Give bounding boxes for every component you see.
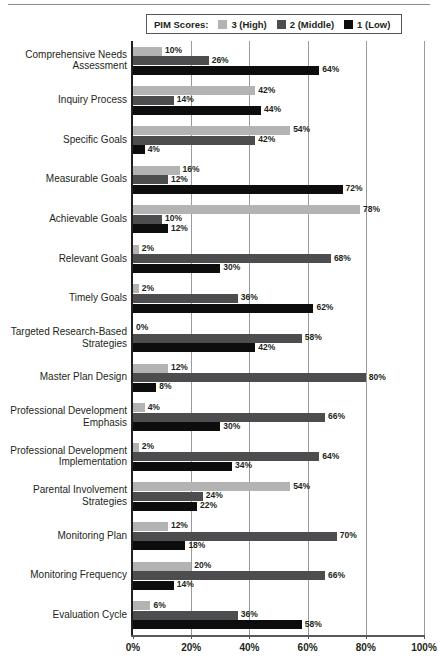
bar-value-label: 14% [174, 579, 194, 589]
legend-title: PIM Scores: [154, 19, 208, 30]
category-label: Monitoring Plan [0, 530, 127, 542]
category-label: Timely Goals [0, 292, 127, 304]
x-axis-tick-label: 80% [356, 642, 376, 653]
bar-value-label: 12% [168, 174, 188, 184]
bar-row: 72% [133, 185, 424, 194]
category-label: Specific Goals [0, 134, 127, 146]
bar-row: 20% [133, 562, 424, 571]
bar [133, 145, 145, 154]
bar [133, 106, 261, 115]
category-label: Professional Development Emphasis [0, 405, 127, 428]
bar-row: 68% [133, 254, 424, 263]
x-axis-tick [308, 635, 309, 639]
bar-row: 2% [133, 284, 424, 293]
bar-value-label: 42% [255, 85, 275, 95]
bar-row: 6% [133, 601, 424, 610]
bar-value-label: 44% [261, 104, 281, 114]
bar-value-label: 10% [162, 213, 182, 223]
bar [133, 364, 168, 373]
bar-row: 2% [133, 443, 424, 452]
bar-value-label: 64% [319, 64, 339, 74]
bar-row: 0% [133, 324, 424, 333]
bar-value-label: 30% [220, 421, 240, 431]
bar-row: 2% [133, 245, 424, 254]
bar-value-label: 72% [343, 183, 363, 193]
bar-row: 12% [133, 175, 424, 184]
x-axis-line [131, 635, 425, 637]
legend-swatch-icon [344, 20, 353, 29]
bar-value-label: 58% [302, 332, 322, 342]
x-axis-tick [133, 635, 134, 639]
bar-row: 12% [133, 522, 424, 531]
bar [133, 581, 174, 590]
legend-entry-label: 2 (Middle) [290, 19, 334, 30]
bar [133, 56, 209, 65]
bar-row: 66% [133, 413, 424, 422]
bar [133, 383, 156, 392]
legend-entry: 2 (Middle) [277, 19, 334, 30]
bar-value-label: 42% [255, 342, 275, 352]
bar-row: 22% [133, 502, 424, 511]
bar-row: 70% [133, 532, 424, 541]
legend-entry-label: 1 (Low) [357, 19, 390, 30]
bar-row: 58% [133, 334, 424, 343]
gridline [424, 41, 425, 635]
bar-value-label: 12% [168, 223, 188, 233]
bar [133, 571, 325, 580]
bar-value-label: 0% [133, 322, 148, 332]
bar-value-label: 54% [290, 481, 310, 491]
top-divider-rule [8, 4, 430, 5]
bar-row: 44% [133, 106, 424, 115]
bar-row: 34% [133, 462, 424, 471]
bar-row: 80% [133, 373, 424, 382]
bar-value-label: 36% [238, 609, 258, 619]
bar-value-label: 26% [209, 55, 229, 65]
bar-value-label: 34% [232, 460, 252, 470]
legend-entry: 3 (High) [218, 19, 266, 30]
bar [133, 462, 232, 471]
x-axis-tick-label: 40% [239, 642, 259, 653]
bar-row: 14% [133, 581, 424, 590]
bar-value-label: 64% [319, 451, 339, 461]
bar [133, 264, 220, 273]
x-axis-tick-label: 60% [298, 642, 318, 653]
bar [133, 541, 185, 550]
chart-legend: PIM Scores: 3 (High)2 (Middle)1 (Low) [146, 14, 402, 34]
bar-row: 26% [133, 56, 424, 65]
category-label: Parental Involvement Strategies [0, 484, 127, 507]
bar [133, 403, 145, 412]
legend-entry-label: 3 (High) [231, 19, 266, 30]
x-axis-tick-label: 100% [411, 642, 437, 653]
category-label: Measurable Goals [0, 173, 127, 185]
bar [133, 334, 302, 343]
category-label: Professional Development Implementation [0, 445, 127, 468]
bar-value-label: 18% [185, 540, 205, 550]
bar-row: 36% [133, 294, 424, 303]
bar-value-label: 2% [139, 243, 154, 253]
bar-value-label: 22% [197, 500, 217, 510]
bar-row: 42% [133, 136, 424, 145]
bar [133, 96, 174, 105]
bar [133, 562, 191, 571]
bar [133, 620, 302, 629]
bar-row: 8% [133, 383, 424, 392]
bar-value-label: 66% [325, 411, 345, 421]
bar [133, 492, 203, 501]
bar-value-label: 8% [156, 381, 171, 391]
bar [133, 66, 319, 75]
bar [133, 224, 168, 233]
bar-value-label: 2% [139, 283, 154, 293]
bar-value-label: 62% [313, 302, 333, 312]
category-label: Inquiry Process [0, 94, 127, 106]
bar-row: 24% [133, 492, 424, 501]
bar [133, 294, 238, 303]
bar-row: 42% [133, 343, 424, 352]
bar-row: 4% [133, 403, 424, 412]
bar-value-label: 10% [162, 45, 182, 55]
bar-row: 62% [133, 304, 424, 313]
category-label: Master Plan Design [0, 371, 127, 383]
bar-row: 30% [133, 422, 424, 431]
bar-value-label: 12% [168, 520, 188, 530]
legend-entry: 1 (Low) [344, 19, 390, 30]
bar-row: 12% [133, 224, 424, 233]
